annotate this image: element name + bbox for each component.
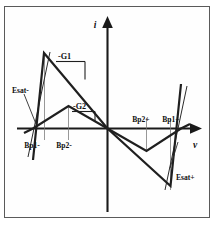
- v-axis-arrow-icon: [190, 123, 202, 134]
- iv-characteristic-plot: i v Esat- Esat+ Bp1- Bp2- Bp2+ Bp1+ -G1 …: [0, 0, 216, 226]
- v-axis-label: v: [193, 140, 198, 150]
- slope-g1-indicator: [56, 62, 85, 80]
- bp1-positive-label: Bp1+: [162, 115, 179, 124]
- bp2-negative-label: Bp2-: [56, 141, 72, 150]
- esat-negative-leader: [24, 94, 36, 124]
- slope-g2-label: -G2: [73, 102, 86, 111]
- slope-g1-label: -G1: [58, 52, 71, 61]
- esat-positive-label: Esat+: [176, 173, 195, 182]
- i-axis-arrow-icon: [102, 16, 113, 28]
- figure-root: i v Esat- Esat+ Bp1- Bp2- Bp2+ Bp1+ -G1 …: [0, 0, 216, 226]
- bp1-negative-label: Bp1-: [24, 141, 40, 150]
- bp2-positive-label: Bp2+: [132, 115, 149, 124]
- i-axis-label: i: [94, 20, 97, 30]
- esat-negative-label: Esat-: [12, 86, 29, 95]
